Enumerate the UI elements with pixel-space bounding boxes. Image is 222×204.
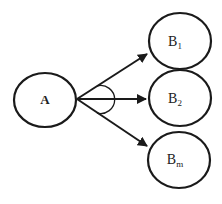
node-b2-label: B xyxy=(168,91,177,106)
edge-a-bm xyxy=(77,99,147,146)
node-bm: Bm xyxy=(148,132,210,188)
node-bm-subscript: m xyxy=(176,159,183,169)
node-a-label: A xyxy=(40,92,50,107)
edge-a-b1 xyxy=(77,54,147,99)
node-b1-subscript: 1 xyxy=(177,41,182,51)
node-a: A xyxy=(14,73,76,127)
node-b1: B1 xyxy=(149,13,211,69)
node-b2: B2 xyxy=(149,70,211,126)
node-b1-label: B xyxy=(168,34,177,49)
node-bm-label: B xyxy=(167,152,176,167)
diagram-canvas: A B1 B2 Bm xyxy=(0,0,222,204)
node-b2-subscript: 2 xyxy=(177,98,182,108)
